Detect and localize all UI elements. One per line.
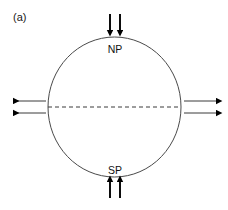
panel-label: (a): [13, 11, 26, 23]
figure-panel: (a) NP SP: [0, 0, 228, 210]
tidal-force-diagram: (a) NP SP: [0, 0, 228, 210]
right-arrows-group: [184, 101, 216, 113]
south-pole-label: SP: [108, 164, 122, 176]
north-pole-label: NP: [108, 43, 123, 55]
left-arrows-group: [13, 101, 46, 113]
bottom-arrows-group: [110, 182, 120, 198]
top-arrows-group: [110, 14, 120, 30]
